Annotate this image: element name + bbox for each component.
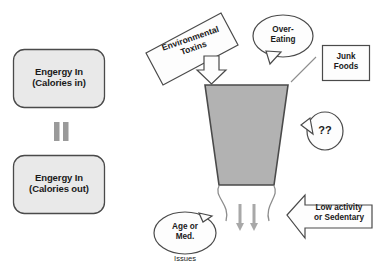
equals-symbol	[54, 122, 69, 141]
junk-foods-connector	[291, 57, 316, 82]
over-eating-bubble-tail	[266, 51, 281, 64]
energy-out-box	[14, 156, 105, 214]
funnel-body	[205, 85, 288, 185]
funnel-neck-right	[268, 186, 275, 221]
diagram-shapes	[0, 0, 380, 272]
over-eating-bubble	[253, 15, 313, 57]
diagram-canvas: Engergy In (Calories in) Engergy In (Cal…	[0, 0, 380, 272]
energy-in-box	[14, 50, 105, 108]
funnel-outflow-arrows	[236, 204, 258, 231]
low-activity-arrow	[287, 195, 372, 238]
environmental-toxins-box	[146, 13, 238, 85]
funnel-neck-left	[218, 186, 227, 221]
junk-foods-box	[323, 46, 370, 81]
